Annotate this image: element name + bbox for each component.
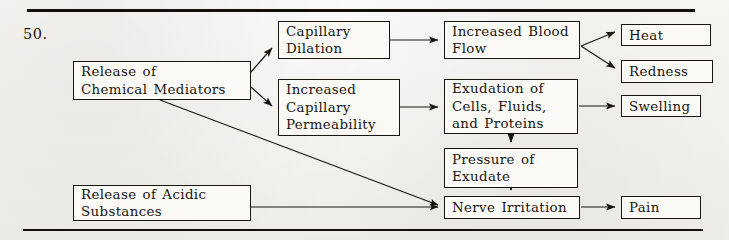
- edge-bloodflow-to-redness: [581, 46, 615, 68]
- node-label: Release of Chemical Mediators: [81, 63, 226, 98]
- node-label: Increased Capillary Permeability: [286, 81, 376, 134]
- node-pressure-of-exudate[interactable]: Pressure of Exudate: [444, 148, 578, 188]
- node-label: Heat: [629, 28, 663, 43]
- node-redness[interactable]: Redness: [621, 60, 713, 83]
- node-label: Nerve Irritation: [452, 200, 567, 215]
- node-label: Pressure of Exudate: [452, 151, 535, 186]
- node-label: Exudation of Cells, Fluids, and Proteins: [452, 80, 547, 133]
- edge-bloodflow-to-heat: [581, 32, 615, 46]
- node-exudation[interactable]: Exudation of Cells, Fluids, and Proteins: [444, 79, 578, 134]
- node-label: Capillary Dilation: [286, 23, 351, 58]
- node-heat[interactable]: Heat: [621, 24, 711, 46]
- node-capillary-dilation[interactable]: Capillary Dilation: [278, 21, 390, 59]
- node-capillary-permeability[interactable]: Increased Capillary Permeability: [278, 79, 400, 136]
- node-acidic-substances[interactable]: Release of Acidic Substances: [73, 185, 251, 221]
- diagram-page: 50.: [0, 0, 729, 240]
- node-swelling[interactable]: Swelling: [621, 95, 701, 117]
- node-label: Increased Blood Flow: [452, 23, 569, 58]
- node-label: Pain: [629, 200, 660, 215]
- question-number: 50.: [23, 26, 48, 42]
- node-nerve-irritation[interactable]: Nerve Irritation: [444, 196, 580, 219]
- node-pain[interactable]: Pain: [621, 196, 701, 219]
- node-chemical-mediators[interactable]: Release of Chemical Mediators: [73, 61, 251, 100]
- node-label: Swelling: [629, 99, 690, 114]
- node-label: Redness: [629, 64, 688, 79]
- node-increased-blood-flow[interactable]: Increased Blood Flow: [444, 21, 580, 59]
- node-label: Release of Acidic Substances: [81, 186, 206, 221]
- edge-mediators-to-dilation: [251, 48, 272, 72]
- page-content-layer: 50.: [0, 0, 729, 240]
- edge-mediators-to-permeability: [251, 87, 272, 106]
